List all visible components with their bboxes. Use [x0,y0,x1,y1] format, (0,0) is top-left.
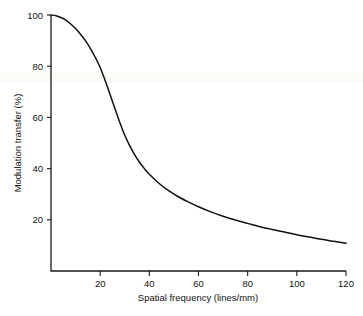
x-tick-label: 40 [144,278,155,289]
y-tick-label: 80 [32,61,43,72]
x-tick-label: 60 [193,278,204,289]
x-tick-label: 120 [338,278,354,289]
scan-artifact-band [0,72,363,82]
x-tick-label: 20 [95,278,106,289]
y-axis-title: Modulation transfer (%) [12,94,23,193]
x-axis-title: Spatial frequency (lines/mm) [138,292,258,303]
chart-background [0,0,363,316]
y-tick-label: 60 [32,112,43,123]
x-tick-label: 80 [242,278,253,289]
y-tick-label: 40 [32,163,43,174]
mtf-chart: 20406080100 20406080100120 Spatial frequ… [0,0,363,316]
y-tick-label: 20 [32,214,43,225]
chart-plot-area: 20406080100 20406080100120 Spatial frequ… [0,0,363,316]
x-tick-label: 100 [289,278,305,289]
y-tick-label: 100 [27,10,43,21]
